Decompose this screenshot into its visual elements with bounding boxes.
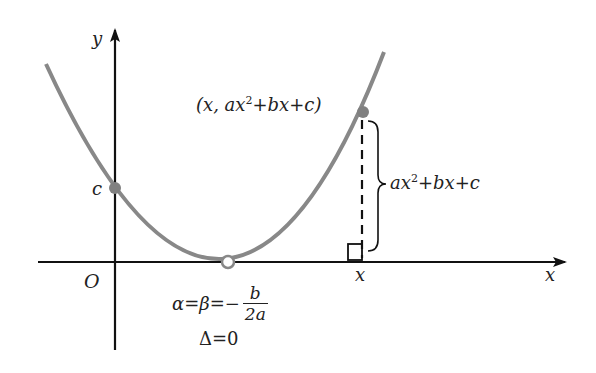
y-intercept-label: c xyxy=(92,180,102,198)
vertex-equation: α=β=−b2a xyxy=(172,283,268,324)
parabola-curve xyxy=(46,52,384,259)
y-axis-label: y xyxy=(92,30,102,48)
x-axis-label: x xyxy=(545,266,555,284)
height-label: ax2+bx+c xyxy=(390,173,480,192)
diagram-canvas xyxy=(0,0,596,373)
y-intercept-point xyxy=(109,182,121,194)
right-angle-marker xyxy=(348,244,362,260)
vertex-point xyxy=(222,256,234,268)
curve-point xyxy=(357,106,369,118)
point-label: (x, ax2+bx+c) xyxy=(196,95,321,114)
discriminant-label: Δ=0 xyxy=(199,330,239,348)
brace xyxy=(368,121,386,251)
origin-label: O xyxy=(84,272,100,291)
foot-x-label: x xyxy=(355,266,365,284)
